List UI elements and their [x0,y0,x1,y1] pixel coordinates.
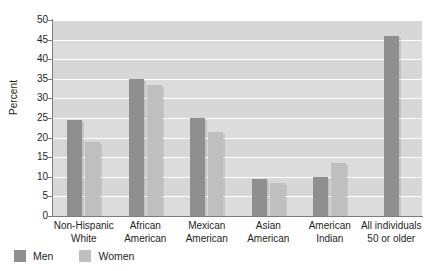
category-label-line: All individuals [353,220,431,233]
y-axis-tick-label: 20 [18,133,48,143]
bar-men [129,79,144,216]
gridline [53,138,422,139]
y-axis-tick-label: 40 [18,54,48,64]
women-swatch [79,250,91,262]
y-axis-tick-label: 15 [18,152,48,162]
legend-label: Women [98,250,134,262]
plot-area [53,20,422,216]
legend-item-men[interactable]: Men [14,250,53,262]
category-label-line: 50 or older [353,233,431,246]
y-axis-tick-label: 25 [18,113,48,123]
bar-shadow [328,179,330,216]
background-band [53,177,422,197]
y-axis-tick-label: 30 [18,93,48,103]
x-axis-category-label: All individuals50 or older [353,220,431,245]
y-axis-tick-label: 10 [18,172,48,182]
y-axis-tick-label: 0 [18,211,48,221]
bar-women [208,132,223,216]
background-band [53,138,422,158]
y-axis-tick-label: 45 [18,35,48,45]
y-axis-tick-label: 35 [18,74,48,84]
x-axis-line [52,216,423,217]
gridline [53,177,422,178]
men-swatch [14,250,26,262]
background-band [53,98,422,118]
bar-men [67,120,82,216]
gridline [53,40,422,41]
bar-shadow [399,38,401,216]
gridline [53,98,422,99]
bar-women [331,163,346,216]
bar-women [147,85,162,216]
bar-men [190,118,205,216]
bar-chart-figure: Percent 50454035302520151050 Non-Hispani… [0,0,438,271]
legend-label: Men [33,250,53,262]
gridline [53,59,422,60]
bar-men [252,179,267,216]
bar-women [270,183,285,216]
bar-men [384,36,399,216]
gridline [53,79,422,80]
bar-shadow [162,87,164,216]
bar-shadow [82,122,84,216]
gridline [53,20,422,21]
bar-women [85,142,100,216]
chart-legend: MenWomen [14,250,160,262]
background-band [53,59,422,79]
gridline [53,196,422,197]
y-axis-title: Percent [8,63,19,133]
bar-shadow [205,120,207,216]
gridline [53,118,422,119]
gridline [53,157,422,158]
bar-shadow [223,134,225,216]
bar-shadow [144,81,146,216]
y-axis-tick-label: 50 [18,15,48,25]
y-axis-line [52,19,53,217]
legend-item-women[interactable]: Women [79,250,134,262]
bar-shadow [267,181,269,216]
bar-shadow [346,165,348,216]
bar-shadow [285,185,287,216]
bar-shadow [100,144,102,216]
y-axis-tick-label: 5 [18,191,48,201]
background-band [53,20,422,40]
bar-men [313,177,328,216]
